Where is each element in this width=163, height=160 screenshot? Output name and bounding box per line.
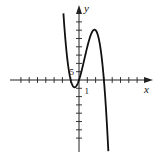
y-axis-arrowhead xyxy=(76,5,82,14)
coordinate-plane: x y 1 5 xyxy=(0,0,163,160)
cubic-graph-figure: x y 1 5 xyxy=(0,0,163,160)
y-axis-label: y xyxy=(83,2,89,14)
x-axis-label: x xyxy=(143,83,149,95)
y-unit-tick-label: 5 xyxy=(70,67,75,77)
cubic-curve xyxy=(63,13,108,151)
x-unit-tick-label: 1 xyxy=(85,86,90,96)
